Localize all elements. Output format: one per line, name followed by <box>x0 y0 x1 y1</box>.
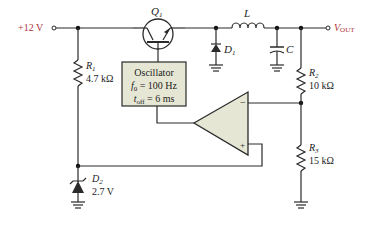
ground-icon <box>209 65 223 71</box>
opamp-inverting-symbol: − <box>240 97 246 108</box>
inductor-label: L <box>243 7 250 19</box>
supply-terminal <box>52 26 56 30</box>
diode-d1 <box>211 28 221 65</box>
zener-diode-d2 <box>70 166 86 202</box>
resistor-r3 <box>297 145 305 171</box>
d2-label: D2 <box>91 173 103 186</box>
oscillator-title: Oscillator <box>134 67 174 78</box>
ground-icon <box>294 202 308 208</box>
d1-label: D1 <box>223 43 235 57</box>
opamp: − + <box>194 92 248 155</box>
r1-label: R1 <box>85 60 96 73</box>
capacitor-c <box>270 28 284 65</box>
opamp-noninverting-symbol: + <box>240 140 245 150</box>
ground-icon <box>71 202 85 208</box>
output-label: VOUT <box>334 22 355 34</box>
output-terminal <box>326 26 330 30</box>
resistor-r2 <box>297 68 305 94</box>
q1-label: Q1 <box>151 5 162 19</box>
ground-icon <box>270 65 284 71</box>
transistor-q1 <box>133 19 185 62</box>
supply-label: +12 V <box>18 22 44 33</box>
resistor-r1 <box>74 60 82 86</box>
r2-label: R2 <box>308 67 319 80</box>
d2-value: 2.7 V <box>92 186 115 197</box>
inductor-l <box>232 23 264 28</box>
switching-regulator-schematic: +12 V Q1 D1 L <box>0 0 371 226</box>
r1-value: 4.7 kΩ <box>86 73 113 84</box>
r3-label: R3 <box>308 142 319 155</box>
r3-value: 15 kΩ <box>309 155 334 166</box>
r2-value: 10 kΩ <box>309 80 334 91</box>
capacitor-label: C <box>286 43 294 55</box>
